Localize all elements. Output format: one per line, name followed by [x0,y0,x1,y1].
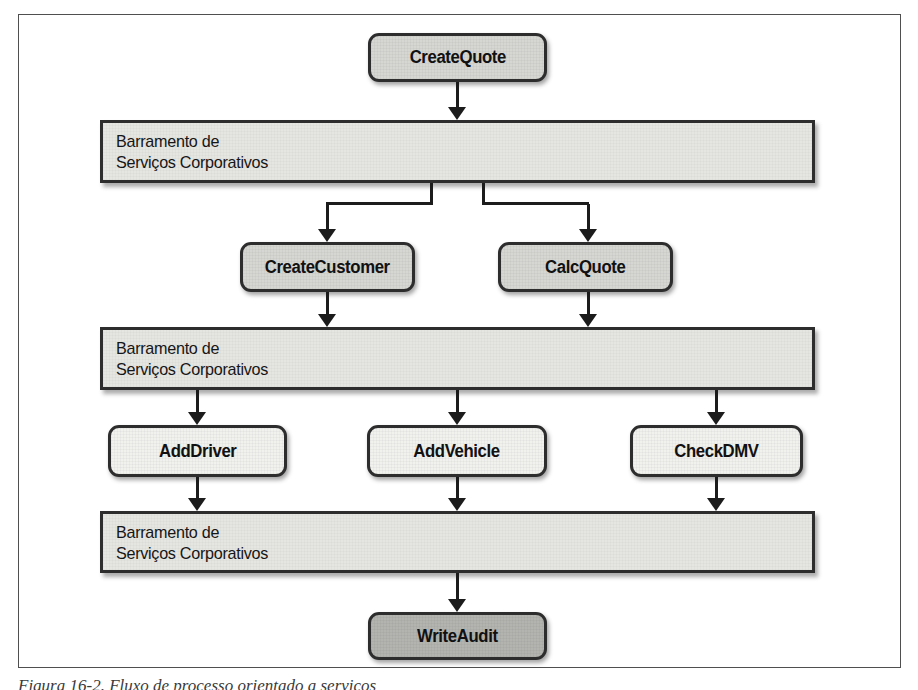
connector-createquote-bus1-line [456,82,459,107]
esb-bar-2: Barramento de Serviços Corporativos [100,327,815,390]
node-create-customer: CreateCustomer [240,242,415,292]
connector-bus1-branch-left-stub [430,183,433,204]
node-add-driver-label: AddDriver [159,441,237,462]
node-check-dmv: CheckDMV [630,425,803,477]
esb-bar-3-label-line1: Barramento de [116,522,777,543]
esb-bar-1: Barramento de Serviços Corporativos [100,120,815,183]
connector-bus1-calcquote-line [587,204,590,229]
esb-bar-3-label-line2: Serviços Corporativos [116,543,777,564]
connector-adddriver-bus3-arrowhead [188,498,206,511]
node-add-vehicle-label: AddVehicle [414,441,501,462]
node-add-vehicle: AddVehicle [367,425,547,477]
connector-createcustomer-bus2-line [326,292,329,314]
book-page: CreateQuote Barramento de Serviços Corpo… [0,0,918,690]
connector-bus2-adddriver-arrowhead [188,412,206,425]
connector-createcustomer-bus2-arrowhead [318,314,336,327]
connector-adddriver-bus3-line [196,477,199,498]
node-calc-quote-label: CalcQuote [545,257,625,278]
connector-bus2-addvehicle-line [456,390,459,412]
connector-checkdmv-bus3-arrowhead [707,498,725,511]
connector-bus2-checkdmv-line [715,390,718,412]
esb-bar-1-label-line2: Serviços Corporativos [116,152,777,173]
esb-bar-2-label-line1: Barramento de [116,338,777,359]
connector-bus3-writeaudit-line [456,573,459,599]
connector-bus1-branch-right-stub [482,183,485,204]
connector-bus1-branch-left-horizontal [326,202,433,205]
connector-bus1-calcquote-arrowhead [579,229,597,242]
node-calc-quote: CalcQuote [498,242,673,292]
connector-checkdmv-bus3-line [715,477,718,498]
connector-addvehicle-bus3-arrowhead [448,498,466,511]
figure-caption: Figura 16-2. Fluxo de processo orientado… [18,676,376,690]
connector-bus2-adddriver-line [196,390,199,412]
node-write-audit-label: WriteAudit [417,626,498,647]
connector-calcquote-bus2-arrowhead [579,314,597,327]
connector-bus1-createcustomer-arrowhead [318,229,336,242]
node-write-audit: WriteAudit [368,612,547,660]
connector-calcquote-bus2-line [587,292,590,314]
connector-bus2-checkdmv-arrowhead [707,412,725,425]
connector-bus1-branch-right-horizontal [482,202,589,205]
esb-bar-2-label-line2: Serviços Corporativos [116,359,777,380]
connector-createquote-bus1-arrowhead [448,107,466,120]
node-add-driver: AddDriver [108,425,287,477]
node-create-quote-label: CreateQuote [409,47,505,68]
connector-bus3-writeaudit-arrowhead [448,599,466,612]
node-check-dmv-label: CheckDMV [674,441,758,462]
connector-bus2-addvehicle-arrowhead [448,412,466,425]
esb-bar-1-label-line1: Barramento de [116,131,777,152]
esb-bar-3: Barramento de Serviços Corporativos [100,511,815,573]
connector-addvehicle-bus3-line [456,477,459,498]
node-create-customer-label: CreateCustomer [265,257,390,278]
connector-bus1-createcustomer-line [326,204,329,229]
node-create-quote: CreateQuote [368,33,547,82]
